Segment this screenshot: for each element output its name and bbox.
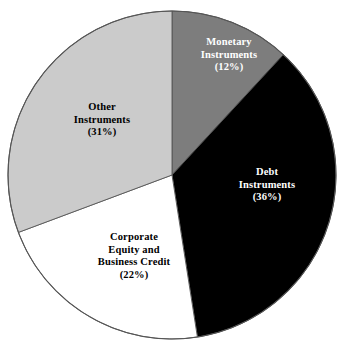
pie-chart: Monetary Instruments (12%) Debt Instrume… [0, 0, 347, 349]
pie-chart-canvas [0, 0, 347, 349]
pie-slice-group [8, 11, 336, 339]
